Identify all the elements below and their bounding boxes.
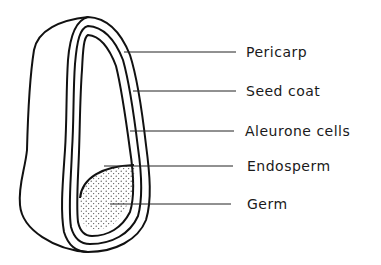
label-germ: Germ — [247, 196, 288, 212]
label-pericarp: Pericarp — [246, 44, 307, 60]
label-aleurone-cells: Aleurone cells — [245, 123, 350, 139]
label-seed-coat: Seed coat — [246, 83, 320, 99]
germ-region — [80, 165, 135, 229]
grain-diagram: Pericarp Seed coat Aleurone cells Endosp… — [0, 0, 381, 265]
label-endosperm: Endosperm — [247, 158, 331, 174]
